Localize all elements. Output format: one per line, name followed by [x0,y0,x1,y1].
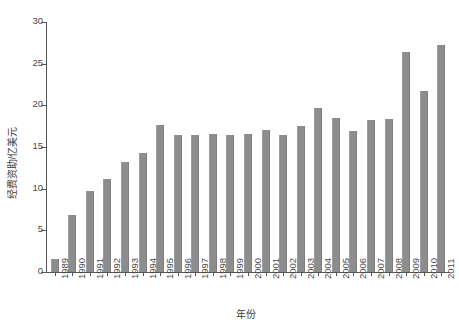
x-tick-label: 1998 [217,258,228,279]
x-tick-mark [178,272,179,276]
x-tick-label: 2007 [375,258,386,279]
bar [332,118,340,272]
bar [226,135,234,273]
y-tick-label: 25 [32,57,43,68]
x-tick-label: 2003 [305,258,316,279]
y-tick-label: 10 [32,182,43,193]
bar [244,134,252,272]
x-tick-mark [318,272,319,276]
x-tick-label: 2005 [340,258,351,279]
x-tick-mark [143,272,144,276]
bar [297,126,305,272]
x-tick-label: 1993 [129,258,140,279]
x-tick-label: 1992 [111,258,122,279]
bar [86,191,94,272]
plot-area: 051015202530 198919901991199219931994199… [46,22,450,272]
bar [367,120,375,273]
bar [121,162,129,272]
y-tick-label: 15 [32,140,43,151]
x-tick-label: 2011 [445,259,456,279]
y-tick-label: 30 [32,15,43,26]
x-tick-label: 2009 [410,258,421,279]
x-tick-mark [371,272,372,276]
x-tick-label: 1991 [94,258,105,279]
x-tick-label: 2000 [252,258,263,279]
x-tick-label: 2008 [393,258,404,279]
x-tick-label: 1997 [199,258,210,279]
x-tick-label: 2010 [428,258,439,279]
x-tick-label: 1989 [59,258,70,279]
x-tick-mark [55,272,56,276]
y-tick-label: 20 [32,98,43,109]
x-tick-label: 1990 [76,258,87,279]
bar [279,135,287,273]
x-tick-mark [441,272,442,276]
bar [420,91,428,272]
bar [174,135,182,273]
x-tick-mark [406,272,407,276]
x-tick-mark [195,272,196,276]
bar [385,119,393,272]
bar [51,259,59,272]
x-tick-mark [283,272,284,276]
x-tick-mark [424,272,425,276]
x-tick-label: 2004 [322,258,333,279]
x-tick-label: 1994 [147,258,158,279]
x-tick-label: 1999 [234,258,245,279]
y-tick-label: 0 [38,265,43,276]
x-tick-mark [353,272,354,276]
x-tick-mark [389,272,390,276]
x-tick-mark [336,272,337,276]
x-tick-mark [248,272,249,276]
x-tick-label: 1996 [182,258,193,279]
x-tick-mark [266,272,267,276]
bar [156,125,164,272]
x-tick-mark [72,272,73,276]
x-tick-mark [90,272,91,276]
bar [314,108,322,272]
bar [349,131,357,272]
bar [402,52,410,272]
x-tick-label: 1995 [164,258,175,279]
bar [437,45,445,272]
y-axis-title: 经费资助/亿美元 [0,0,22,326]
x-tick-mark [213,272,214,276]
x-axis-title: 年份 [40,306,452,321]
x-tick-mark [230,272,231,276]
y-axis-line [46,22,47,273]
y-tick-label: 5 [38,223,43,234]
bar [191,135,199,272]
bar [262,130,270,273]
x-tick-mark [125,272,126,276]
bar [209,134,217,272]
bar [139,153,147,272]
x-tick-label: 2002 [287,258,298,279]
bar-chart: 经费资助/亿美元 051015202530 198919901991199219… [0,0,459,326]
x-tick-label: 2001 [270,258,281,279]
x-tick-mark [160,272,161,276]
x-tick-mark [301,272,302,276]
x-tick-mark [107,272,108,276]
x-tick-label: 2006 [357,258,368,279]
